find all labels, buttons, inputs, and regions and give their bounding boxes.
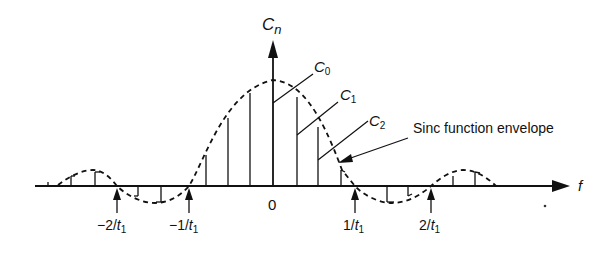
c2-label: C2 (369, 112, 386, 131)
up-arrow-icon (427, 188, 435, 200)
svg-text:−2/t1: −2/t1 (97, 217, 127, 235)
envelope-pointer-arrowhead (338, 154, 353, 163)
frequency-axis-label: f (578, 177, 584, 194)
up-arrow-icon (113, 188, 121, 200)
zero-marker-neg2: −2/t1 (97, 188, 127, 235)
zero-marker-neg1: −1/t1 (169, 188, 199, 235)
zero-marker-pos2: 2/t1 (419, 188, 441, 235)
envelope-label: Sinc function envelope (413, 120, 554, 136)
c1-label: C1 (340, 86, 357, 105)
sinc-spectrum-diagram: f Cn C0 C1 (0, 0, 615, 253)
svg-text:1/t1: 1/t1 (343, 217, 365, 235)
amplitude-axis-arrowhead (268, 40, 278, 58)
svg-text:−1/t1: −1/t1 (169, 217, 199, 235)
amplitude-axis-label: Cn (262, 15, 282, 37)
c0-leader (273, 74, 313, 103)
zero-marker-pos1: 1/t1 (343, 188, 365, 235)
envelope-pointer-line (345, 138, 408, 160)
frequency-axis-arrowhead (552, 180, 570, 192)
svg-text:2/t1: 2/t1 (419, 217, 441, 235)
stray-dot (544, 205, 547, 208)
origin-label: 0 (268, 196, 276, 213)
c0-label: C0 (314, 58, 331, 77)
sinc-envelope-curve (58, 80, 496, 203)
